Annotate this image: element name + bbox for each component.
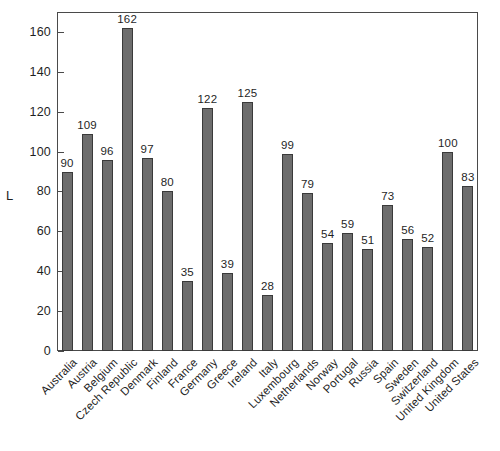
y-tick-label: 40 [0,264,57,278]
bar-value-label: 54 [321,228,334,240]
bar[interactable] [162,191,173,351]
bar[interactable] [202,108,213,351]
bar-value-label: 90 [60,157,73,169]
bar[interactable] [242,102,253,351]
bar-value-label: 83 [461,171,474,183]
bar[interactable] [462,186,473,352]
y-tick-label: 100 [0,145,57,159]
bar-value-label: 73 [381,190,394,202]
bar[interactable] [302,193,313,351]
y-tick-label: 120 [0,105,57,119]
y-tick-label: 140 [0,65,57,79]
bar-value-label: 52 [421,232,434,244]
bar[interactable] [362,249,373,351]
bar-value-label: 28 [261,280,274,292]
bar[interactable] [222,273,233,351]
bar-value-label: 162 [117,13,137,25]
bar[interactable] [382,205,393,351]
bar-value-label: 97 [141,143,154,155]
y-tick-label: 80 [0,184,57,198]
bar-value-label: 109 [77,119,97,131]
bar-value-label: 79 [301,178,314,190]
y-tick-label: 60 [0,224,57,238]
bar-value-label: 125 [238,87,258,99]
y-tick-label: 160 [0,25,57,39]
y-tick-label: 0 [0,344,57,358]
y-tick-label: 20 [0,304,57,318]
bar[interactable] [142,158,153,351]
bar[interactable] [262,295,273,351]
bar-value-label: 100 [438,137,458,149]
bar[interactable] [342,233,353,351]
bar-chart: L 020406080100120140160 9010996162978035… [0,0,500,451]
bar-value-label: 99 [281,139,294,151]
y-tick-mark [58,351,64,352]
bar-value-label: 80 [161,176,174,188]
bar-value-label: 51 [361,234,374,246]
bar-value-label: 56 [401,224,414,236]
bar[interactable] [402,239,413,351]
bar[interactable] [422,247,433,351]
bar-value-label: 35 [181,266,194,278]
bar[interactable] [122,28,133,351]
bar-value-label: 39 [221,258,234,270]
bar[interactable] [62,172,73,351]
bar[interactable] [182,281,193,351]
bar-value-label: 96 [101,145,114,157]
bar[interactable] [282,154,293,351]
bar[interactable] [322,243,333,351]
bars-layer: 9010996162978035122391252899795459517356… [57,12,478,351]
bar[interactable] [82,134,93,351]
bar-value-label: 59 [341,218,354,230]
bar[interactable] [102,160,113,351]
bar-value-label: 122 [197,93,217,105]
bar[interactable] [442,152,453,351]
